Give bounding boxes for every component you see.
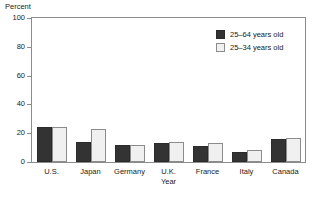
legend-label: 25–64 years old xyxy=(230,30,283,39)
bar-group xyxy=(76,18,106,162)
bar xyxy=(115,145,130,162)
bar xyxy=(232,152,247,162)
bar xyxy=(130,145,145,162)
y-axis-tick-label: 20 xyxy=(17,128,25,137)
y-axis-tick-mark xyxy=(27,18,31,19)
bar xyxy=(286,138,301,162)
bar-group xyxy=(154,18,184,162)
bar xyxy=(271,139,286,162)
chart-legend: 25–64 years old 25–34 years old xyxy=(216,28,283,54)
bar xyxy=(154,143,169,162)
bar-group xyxy=(115,18,145,162)
y-axis-tick-mark xyxy=(27,47,31,48)
bar xyxy=(169,142,184,162)
bar-group xyxy=(37,18,67,162)
bar xyxy=(37,127,52,162)
y-axis-tick-mark xyxy=(27,162,31,163)
bar xyxy=(76,142,91,162)
y-axis-tick-label: 100 xyxy=(12,13,25,22)
bar xyxy=(91,129,106,162)
bar xyxy=(208,143,223,162)
bar xyxy=(52,127,67,162)
y-axis-tick-label: 40 xyxy=(17,99,25,108)
bar xyxy=(193,146,208,162)
legend-item-25-64: 25–64 years old xyxy=(216,28,283,41)
legend-swatch-dark-icon xyxy=(216,30,225,39)
y-axis-tick-label: 60 xyxy=(17,71,25,80)
y-axis-tick-label: 80 xyxy=(17,42,25,51)
y-axis-title: Percent xyxy=(5,2,31,11)
x-axis-label: Canada xyxy=(256,167,316,177)
y-axis-tick-mark xyxy=(27,104,31,105)
y-axis-tick-mark xyxy=(27,133,31,134)
bar xyxy=(247,150,262,162)
bar-chart: Percent 020406080100 U.S.JapanGermanyU.K… xyxy=(0,0,321,201)
legend-item-25-34: 25–34 years old xyxy=(216,41,283,54)
y-axis-tick-label: 0 xyxy=(21,157,25,166)
legend-label: 25–34 years old xyxy=(230,43,283,52)
legend-swatch-light-icon xyxy=(216,43,225,52)
y-axis-tick-mark xyxy=(27,76,31,77)
x-axis-title: Year xyxy=(139,177,199,187)
